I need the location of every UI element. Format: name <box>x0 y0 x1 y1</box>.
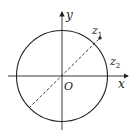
x-axis-label: x <box>118 77 125 91</box>
dashed-diameter <box>29 38 100 108</box>
origin-label: O <box>64 80 73 93</box>
y-axis-label: y <box>65 8 73 22</box>
complex-plane-diagram: y x O z1 z2 <box>0 0 136 138</box>
z1-label: z1 <box>91 24 102 39</box>
z2-label: z2 <box>109 55 120 70</box>
